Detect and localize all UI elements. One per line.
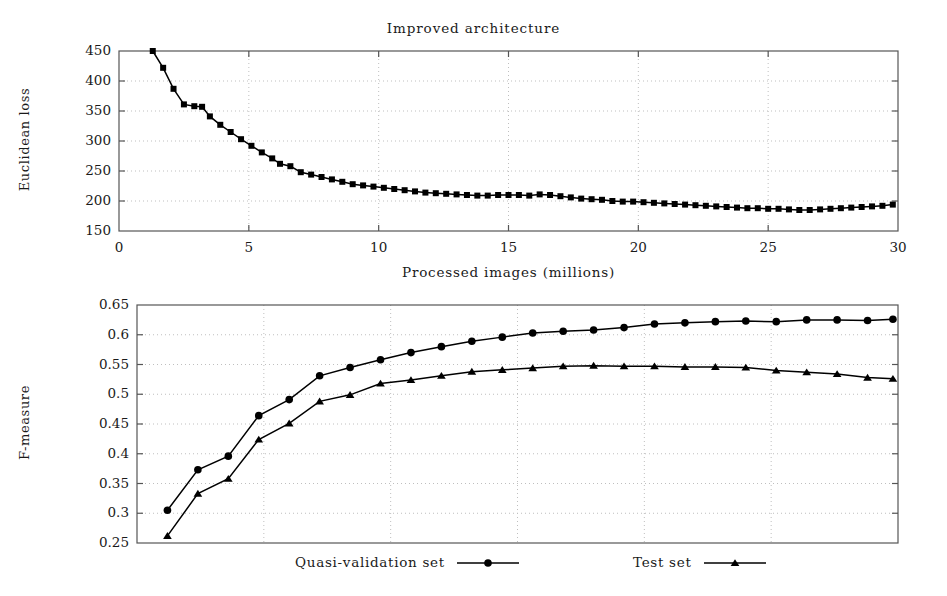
fmeasure-chart-y-tick: 0.55 <box>77 356 129 372</box>
loss-chart-y-tick: 150 <box>59 222 111 238</box>
loss-chart-y-tick: 350 <box>59 102 111 118</box>
loss-chart-y-tick: 450 <box>59 42 111 58</box>
fmeasure-chart-y-tick: 0.6 <box>77 326 129 342</box>
loss-chart-x-tick: 0 <box>99 239 139 255</box>
fmeasure-chart-y-tick: 0.5 <box>77 385 129 401</box>
fmeasure-chart-y-tick: 0.4 <box>77 445 129 461</box>
fmeasure-chart-y-tick: 0.45 <box>77 415 129 431</box>
fmeasure-chart-y-tick: 0.25 <box>77 534 129 550</box>
fmeasure-chart-y-tick: 0.3 <box>77 504 129 520</box>
loss-chart-y-tick: 300 <box>59 132 111 148</box>
loss-chart-x-tick: 5 <box>229 239 269 255</box>
loss-chart-x-tick: 25 <box>748 239 788 255</box>
loss-chart-x-tick: 30 <box>878 239 918 255</box>
loss-chart-y-tick: 400 <box>59 72 111 88</box>
legend-markers <box>0 0 947 596</box>
loss-chart-y-tick: 250 <box>59 162 111 178</box>
figure-root: Improved architecture Euclidean loss Pro… <box>0 0 947 596</box>
fmeasure-chart-y-tick: 0.65 <box>77 296 129 312</box>
loss-chart-x-tick: 20 <box>618 239 658 255</box>
fmeasure-chart-y-tick: 0.35 <box>77 475 129 491</box>
loss-chart-y-tick: 200 <box>59 192 111 208</box>
loss-chart-x-tick: 10 <box>359 239 399 255</box>
loss-chart-x-tick: 15 <box>489 239 529 255</box>
